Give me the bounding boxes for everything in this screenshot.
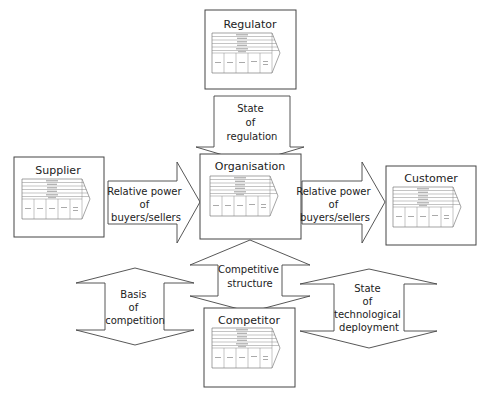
regulator-entity: Regulator [205, 10, 296, 89]
supplier-title: Supplier [35, 164, 81, 177]
competitor-value-chain-icon [212, 328, 280, 368]
competitive-environment-diagram: Regulator State of regulation Supplier R… [0, 0, 490, 399]
basis-of-competition-arrow: Basis of competition [76, 268, 194, 345]
organisation-title: Organisation [215, 160, 285, 173]
organisation-entity: Organisation [200, 154, 301, 239]
regulator-title: Regulator [223, 18, 277, 31]
supplier-value-chain-icon [22, 179, 90, 219]
supplier-power-arrow: Relative power of buyers/sellers [107, 162, 200, 243]
competitive-structure-arrow: Competitive structure [190, 240, 310, 312]
regulation-arrow: State of regulation [196, 96, 304, 163]
technological-deployment-arrow: State of technological deployment [300, 269, 437, 348]
organisation-value-chain-icon [210, 176, 278, 216]
customer-entity: Customer [386, 166, 476, 245]
customer-value-chain-icon [393, 187, 461, 227]
customer-power-arrow: Relative power of buyers/sellers [296, 162, 385, 243]
competitor-title: Competitor [218, 314, 280, 327]
competitor-entity: Competitor [204, 308, 295, 387]
supplier-entity: Supplier [14, 157, 104, 237]
customer-title: Customer [404, 172, 458, 185]
regulator-value-chain-icon [212, 33, 280, 73]
